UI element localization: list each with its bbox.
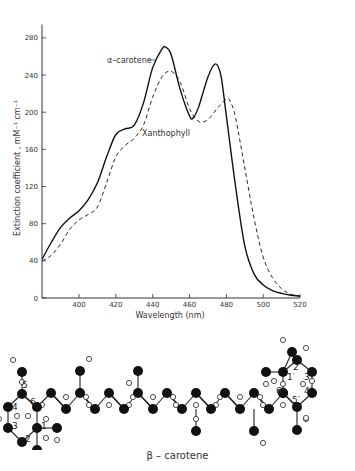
hydrogen-atom xyxy=(10,357,15,362)
carbon-atom xyxy=(249,388,259,398)
series-lines xyxy=(42,46,300,296)
ring-position-label: 3 xyxy=(12,421,18,431)
carbon-atom xyxy=(75,366,85,376)
hydrogen-atom xyxy=(237,394,242,399)
hydrogen-atom xyxy=(280,337,285,342)
y-tick-label: 120 xyxy=(25,183,38,191)
carbon-atom xyxy=(287,347,297,357)
hydrogen-atom xyxy=(260,440,265,445)
ring-position-label: 6 xyxy=(30,397,36,407)
carbon-atom xyxy=(148,404,158,414)
y-tick-label: 0 xyxy=(34,295,38,303)
carbon-atom xyxy=(133,388,143,398)
carbon-atom xyxy=(119,404,129,414)
x-tick-label: 460 xyxy=(183,301,196,309)
hydrogen-atom xyxy=(193,402,198,407)
x-tick-label: 520 xyxy=(293,301,306,309)
axes: 0408012016020024028040042044046048050052… xyxy=(25,25,307,309)
y-tick-label: 240 xyxy=(25,72,38,80)
carbon-atom xyxy=(162,388,172,398)
hydrogen-atom xyxy=(263,381,268,386)
legend-label-alpha-carotene: α–carotene xyxy=(107,56,152,65)
hydrogen-atom xyxy=(14,413,19,418)
hydrogen-atom xyxy=(303,345,308,350)
ring-position-label: 4 xyxy=(12,402,18,412)
x-tick-label: 440 xyxy=(146,301,159,309)
hydrogen-atom xyxy=(0,416,2,421)
carbon-atom xyxy=(261,367,271,377)
ring-position-label: 4′ xyxy=(304,386,312,396)
carbon-atom xyxy=(75,388,85,398)
ring-position-label: 2′ xyxy=(293,362,301,372)
carbon-atom xyxy=(191,388,201,398)
carbon-atom xyxy=(249,426,259,436)
carbon-atom xyxy=(206,404,216,414)
y-axis-title: Extinction coefficient , mM⁻¹ cm⁻¹ xyxy=(13,100,22,236)
carbon-atom xyxy=(177,404,187,414)
x-axis-title: Wavelength (nm) xyxy=(135,311,204,320)
y-tick-label: 160 xyxy=(25,146,38,154)
legend-label-xanthophyll: Xanthophyll xyxy=(142,129,190,138)
xanthophyll-line xyxy=(42,71,300,296)
ring-position-label: 3′ xyxy=(304,372,312,382)
carbon-atom xyxy=(191,426,201,436)
hydrogen-atom xyxy=(193,416,198,421)
ring-position-label: 1′ xyxy=(287,372,295,382)
carbon-atom xyxy=(235,404,245,414)
hydrogen-atom xyxy=(86,356,91,361)
x-tick-label: 420 xyxy=(109,301,122,309)
ring-position-label: 5′ xyxy=(292,395,300,405)
ring-position-label: 2 xyxy=(25,434,31,444)
x-tick-label: 500 xyxy=(257,301,270,309)
y-tick-label: 200 xyxy=(25,109,38,117)
x-tick-label: 480 xyxy=(220,301,233,309)
hydrogen-atom xyxy=(303,415,308,420)
hydrogen-atom xyxy=(106,402,111,407)
carbon-atom xyxy=(133,366,143,376)
carbon-atom xyxy=(17,389,27,399)
hydrogen-atom xyxy=(150,394,155,399)
y-tick-label: 280 xyxy=(25,34,38,42)
hydrogen-atom xyxy=(63,394,68,399)
beta-carotene-molecule-diagram: 1234561′2′3′4′5′6′ xyxy=(0,330,355,450)
hydrogen-atom xyxy=(25,413,30,418)
ring-position-label: 1 xyxy=(41,421,47,431)
carbon-atom xyxy=(52,423,62,433)
ring-position-label: 5 xyxy=(22,380,28,390)
hydrogen-atom xyxy=(280,402,285,407)
molecule-caption: β – carotene xyxy=(0,450,355,461)
hydrogen-atom xyxy=(271,378,276,383)
y-tick-label: 40 xyxy=(29,257,38,265)
ring-position-label: 6′ xyxy=(276,386,284,396)
carbon-atom xyxy=(264,404,274,414)
x-tick-label: 400 xyxy=(72,301,85,309)
carbon-atom xyxy=(90,404,100,414)
hydrogen-atom xyxy=(43,435,48,440)
carbon-atom xyxy=(46,388,56,398)
alpha-carotene-line xyxy=(42,46,300,296)
absorption-spectrum-chart: 0408012016020024028040042044046048050052… xyxy=(0,0,355,330)
carbon-atom xyxy=(17,367,27,377)
y-tick-label: 80 xyxy=(29,220,38,228)
carbon-atom xyxy=(220,388,230,398)
carbon-atom xyxy=(104,388,114,398)
carbon-atom xyxy=(61,404,71,414)
carbon-atom xyxy=(292,425,302,435)
hydrogen-atom xyxy=(54,437,59,442)
hydrogen-atom xyxy=(126,380,131,385)
